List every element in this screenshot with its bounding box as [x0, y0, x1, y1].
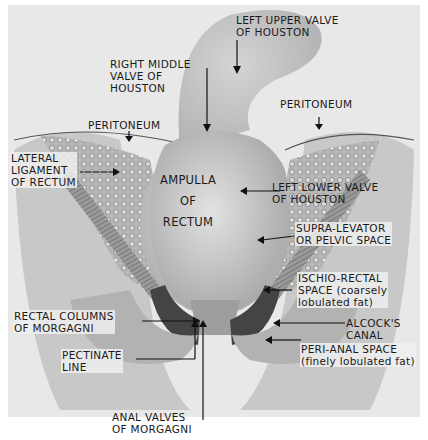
- label-left-upper-valve: LEFT UPPER VALVEOF HOUSTON: [236, 14, 339, 38]
- label-ischio-rectal: ISCHIO-RECTALSPACE (coarselylobulated fa…: [297, 272, 388, 308]
- label-ampulla: AMPULLAOFRECTUM: [160, 170, 216, 233]
- label-pectinate-line: PECTINATELINE: [61, 349, 123, 373]
- label-rectal-columns: RECTAL COLUMNSOF MORGAGNI: [13, 310, 115, 334]
- label-lateral-ligament: LATERALLIGAMENTOF RECTUM: [10, 152, 77, 188]
- label-anal-valves: ANAL VALVESOF MORGAGNI: [112, 411, 192, 435]
- anatomy-figure: LEFT UPPER VALVEOF HOUSTON RIGHT MIDDLEV…: [0, 0, 428, 440]
- label-peritoneum-right: PERITONEUM: [280, 98, 352, 110]
- label-peritoneum-left: PERITONEUM: [88, 119, 160, 131]
- label-peri-anal: PERI-ANAL SPACE(finely lobulated fat): [300, 343, 416, 367]
- label-right-middle-valve: RIGHT MIDDLEVALVE OFHOUSTON: [110, 58, 191, 94]
- label-left-lower-valve: LEFT LOWER VALVEOF HOUSTON: [272, 181, 379, 205]
- label-alcocks-canal: ALCOCK'SCANAL: [346, 317, 401, 341]
- label-supra-levator: SUPRA-LEVATOROR PELVIC SPACE: [295, 222, 392, 246]
